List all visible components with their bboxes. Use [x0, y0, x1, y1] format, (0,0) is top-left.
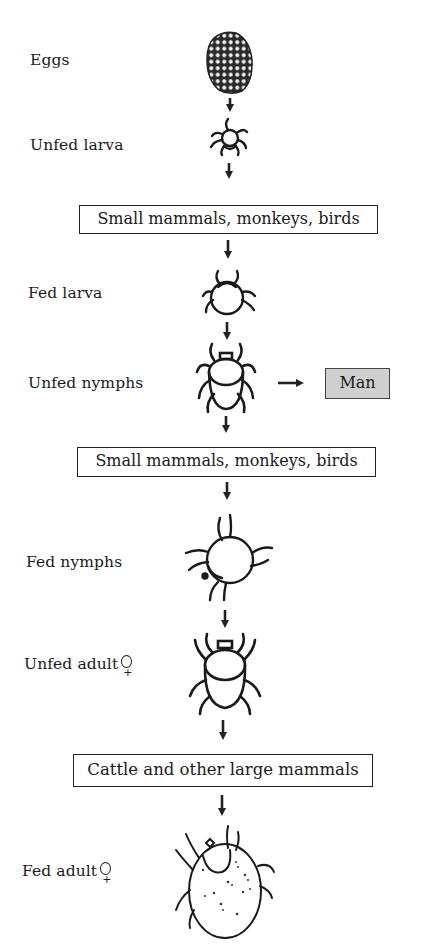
- larva-icon: [211, 119, 247, 155]
- engorged-tick-icon: [176, 826, 274, 938]
- egg-mass-icon: [207, 32, 252, 93]
- adult-tick-icon: [190, 634, 260, 714]
- fed-larva-icon: [203, 271, 255, 314]
- fed-nymph-icon: [186, 515, 272, 600]
- nymph-icon: [197, 344, 255, 412]
- diagram-drawing-layer: [0, 0, 422, 948]
